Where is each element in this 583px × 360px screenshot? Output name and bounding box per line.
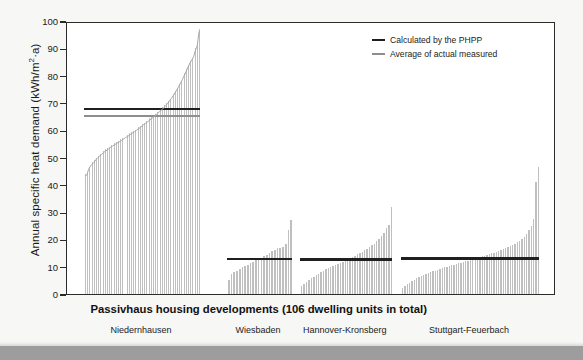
x-site-label-wiesbaden: Wiesbaden bbox=[236, 325, 281, 335]
y-tick-label: 80 bbox=[18, 71, 58, 82]
y-tick-label: 0 bbox=[18, 289, 58, 300]
legend-item-measured: Average of actual measured bbox=[372, 47, 497, 61]
chart-figure: Annual specific heat demand (kWh/m2·a) 0… bbox=[0, 0, 583, 360]
legend-label-phpp: Calculated by the PHPP bbox=[390, 33, 482, 47]
y-tick-label: 40 bbox=[18, 180, 58, 191]
legend-item-phpp: Calculated by the PHPP bbox=[372, 33, 497, 47]
y-tick-label: 20 bbox=[18, 234, 58, 245]
plot-area bbox=[66, 22, 555, 295]
x-site-label-stuttgart-feuerbach: Stuttgart-Feuerbach bbox=[429, 325, 509, 335]
y-tick-label: 90 bbox=[18, 43, 58, 54]
y-tick-label: 70 bbox=[18, 98, 58, 109]
y-tick-label: 100 bbox=[18, 16, 58, 27]
x-group-heading-passivhaus: Passivhaus housing developments (106 dwe… bbox=[91, 303, 427, 315]
legend-swatch-measured-icon bbox=[372, 53, 385, 54]
bottom-band bbox=[0, 346, 583, 360]
legend-swatch-phpp-icon bbox=[372, 39, 385, 41]
niedernhausen-trend-curve bbox=[67, 23, 554, 294]
plot-inner bbox=[67, 23, 554, 294]
chart-legend: Calculated by the PHPP Average of actual… bbox=[372, 33, 497, 61]
y-tick-label: 10 bbox=[18, 262, 58, 273]
x-site-label-niedernhausen: Niedernhausen bbox=[111, 325, 172, 335]
x-site-label-hannover-kronsberg: Hannover-Kronsberg bbox=[303, 325, 387, 335]
y-tick-label: 60 bbox=[18, 125, 58, 136]
y-tick-label: 50 bbox=[18, 153, 58, 164]
y-tick-label: 30 bbox=[18, 207, 58, 218]
legend-label-measured: Average of actual measured bbox=[390, 47, 497, 61]
